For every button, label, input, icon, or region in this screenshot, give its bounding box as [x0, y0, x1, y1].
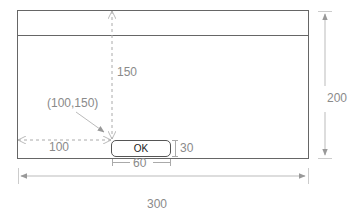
- window-width-label: 300: [147, 198, 167, 210]
- window-height-dimension: [318, 12, 332, 159]
- origin-coordinate-label: (100,150): [47, 97, 98, 109]
- button-height-label: 30: [180, 142, 193, 154]
- x-offset-label: 100: [49, 141, 69, 153]
- ok-button-label: OK: [134, 143, 148, 154]
- ok-button[interactable]: OK: [111, 140, 171, 157]
- window-frame: [18, 11, 309, 159]
- window-width-dimension: [19, 168, 309, 184]
- button-width-label: 60: [133, 157, 146, 169]
- window-height-label: 200: [327, 92, 347, 104]
- y-offset-label: 150: [117, 66, 137, 78]
